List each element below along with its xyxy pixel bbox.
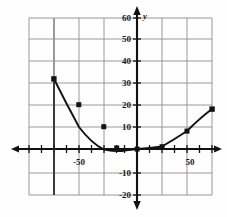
y-tick-label--20: -20 [119,190,131,200]
y-tick-label-40: 40 [122,56,132,66]
x-axis-left-arrow-icon [11,146,19,153]
graph-figure: 60 50 40 30 20 10 -10 -20 -50 50 y [0,0,227,217]
data-point [209,106,214,111]
y-axis-up-arrow-icon [133,6,140,15]
y-tick-label--10: -10 [119,168,131,178]
y-tick-label-50: 50 [122,34,132,44]
data-point [185,129,190,134]
data-point [160,144,165,149]
data-point [51,76,56,81]
x-tick-label-50: 50 [186,157,196,167]
data-point [101,124,106,129]
x-tick-label--50: -50 [73,157,85,167]
y-tick-label-10: 10 [122,122,132,132]
data-point [114,146,119,151]
x-axis-right-arrow-icon [214,146,222,153]
y-tick-label-30: 30 [122,78,132,88]
data-point [135,147,140,152]
coordinate-plane-svg: 60 50 40 30 20 10 -10 -20 -50 50 y [0,0,227,217]
data-point [76,102,81,107]
y-axis-down-arrow-icon [133,201,140,210]
y-tick-label-60: 60 [122,13,132,23]
y-tick-label-20: 20 [122,100,132,110]
